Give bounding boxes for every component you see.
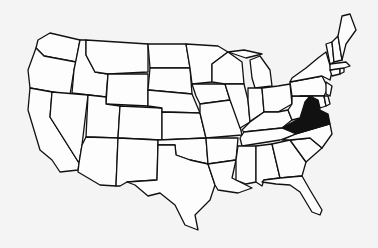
state-wyoming[interactable]: [106, 74, 148, 106]
state-kansas[interactable]: [162, 112, 206, 140]
state-arizona[interactable]: [78, 137, 118, 186]
state-north-dakota[interactable]: [148, 44, 190, 68]
state-mississippi[interactable]: [236, 146, 256, 184]
state-new-mexico[interactable]: [116, 138, 158, 186]
state-colorado[interactable]: [118, 106, 162, 140]
state-ohio[interactable]: [262, 84, 292, 112]
state-maine[interactable]: [338, 14, 356, 60]
us-map: [0, 0, 378, 248]
state-montana[interactable]: [86, 40, 148, 74]
state-florida[interactable]: [262, 176, 322, 215]
state-new-york[interactable]: [290, 52, 332, 82]
state-new-jersey[interactable]: [326, 82, 332, 96]
